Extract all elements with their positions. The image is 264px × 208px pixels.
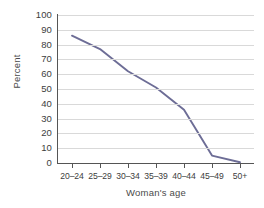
x-tick-label: 25–29 <box>88 171 111 182</box>
gridline <box>58 74 254 75</box>
gridline <box>58 45 254 46</box>
y-tick-label: 80 <box>22 40 52 50</box>
gridline <box>58 133 254 134</box>
gridline <box>58 104 254 105</box>
y-axis-title: Percent <box>11 32 22 112</box>
y-tick-label: 100 <box>22 10 52 20</box>
y-axis-tick-labels: 1009080706050403020100 <box>22 9 52 169</box>
y-tick-label: 70 <box>22 54 52 64</box>
y-tick-label: 0 <box>22 158 52 168</box>
gridline <box>58 15 254 16</box>
x-axis-title: Woman's age <box>58 187 254 198</box>
y-tick-label: 20 <box>22 128 52 138</box>
y-tick-label: 90 <box>22 25 52 35</box>
gridline <box>58 30 254 31</box>
x-tick-mark <box>156 164 157 168</box>
plot-area <box>58 15 254 163</box>
y-tick-label: 60 <box>22 69 52 79</box>
x-tick-label: 40–44 <box>172 171 195 182</box>
x-tick-mark <box>72 164 73 168</box>
x-tick-mark <box>240 164 241 168</box>
x-tick-label: 45–49 <box>200 171 223 182</box>
gridline <box>58 89 254 90</box>
x-tick-mark <box>128 164 129 168</box>
gridline <box>58 119 254 120</box>
line-chart-figure: Percent 1009080706050403020100 20–2425–2… <box>0 0 264 208</box>
x-tick-label: 35–39 <box>144 171 167 182</box>
x-tick-label: 50+ <box>233 171 247 182</box>
x-tick-mark <box>100 164 101 168</box>
x-tick-label: 20–24 <box>60 171 83 182</box>
x-axis-tick-labels: 20–2425–2930–3435–3940–4445–4950+ <box>58 171 258 185</box>
y-tick-label: 30 <box>22 114 52 124</box>
x-tick-mark <box>184 164 185 168</box>
gridline <box>58 148 254 149</box>
x-tick-label: 30–34 <box>116 171 139 182</box>
y-tick-label: 10 <box>22 143 52 153</box>
y-tick-label: 50 <box>22 84 52 94</box>
x-tick-mark <box>212 164 213 168</box>
gridline <box>58 59 254 60</box>
y-tick-label: 40 <box>22 99 52 109</box>
